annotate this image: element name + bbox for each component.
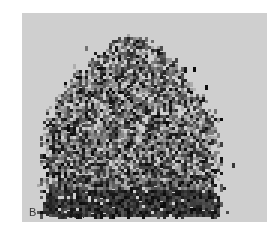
panel-label: B [29,206,36,218]
scan-panel: B POST. [22,13,267,222]
scintigraphy-image [22,13,267,222]
view-label: POST. [63,212,85,219]
